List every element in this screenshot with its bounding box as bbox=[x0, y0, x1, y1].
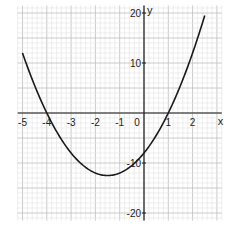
x-tick-label: -5 bbox=[18, 117, 27, 128]
y-tick-label: 10 bbox=[130, 58, 142, 69]
x-axis-label: x bbox=[218, 115, 224, 127]
chart-svg: -5-4-3-2-10122010-10-20 x y bbox=[0, 0, 235, 228]
x-tick-label: -3 bbox=[67, 117, 76, 128]
y-tick-label: 20 bbox=[130, 8, 142, 19]
y-tick-label: -20 bbox=[127, 208, 142, 219]
parabola-curve bbox=[23, 16, 205, 176]
x-tick-label: -1 bbox=[115, 117, 124, 128]
x-tick-label: 0 bbox=[134, 117, 140, 128]
x-tick-label: 1 bbox=[166, 117, 172, 128]
y-axis-label: y bbox=[147, 4, 153, 16]
x-tick-label: 2 bbox=[190, 117, 196, 128]
x-tick-label: -2 bbox=[91, 117, 100, 128]
